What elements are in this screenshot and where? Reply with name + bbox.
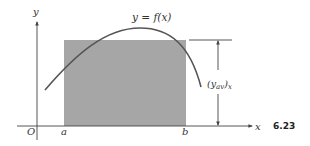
average-value-diagram: y y = f(x) O a b x (yav)x 6.23 (0, 0, 310, 146)
average-subscript-x: x (228, 83, 232, 91)
curve-label: y = f(x) (131, 11, 171, 23)
svg-text:(yav)x: (yav)x (207, 78, 232, 91)
average-sub: av (216, 83, 224, 91)
average-value-label: (yav)x (207, 78, 232, 91)
a-label: a (61, 126, 67, 137)
figure-number: 6.23 (273, 121, 295, 131)
origin-label: O (27, 126, 35, 137)
b-label: b (182, 126, 188, 137)
y-axis-label: y (32, 6, 39, 17)
x-axis-label: x (255, 121, 261, 132)
